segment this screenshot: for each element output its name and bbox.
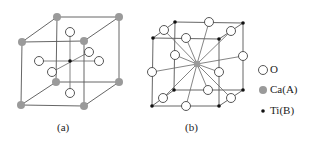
titanium-atom: [241, 21, 245, 25]
oxygen-atom: [239, 52, 248, 61]
calcium-atom: [17, 101, 25, 109]
oxygen-atom: [48, 68, 57, 77]
oxygen-atom: [171, 51, 180, 60]
perovskite-diagram: [0, 0, 311, 147]
oxygen-atom: [148, 68, 157, 77]
titanium-atom: [241, 88, 245, 92]
cube-a-edge: [22, 41, 84, 42]
calcium-atom: [18, 38, 26, 46]
calcium-atom: [80, 37, 88, 45]
calcium-atom: [80, 102, 88, 110]
legend-calcium-label: Ca(A): [270, 83, 298, 95]
panel-a-cube: [17, 13, 123, 110]
oxygen-atom: [227, 94, 236, 103]
calcium-atom: [115, 78, 123, 86]
titanium-atom: [68, 59, 72, 63]
titanium-atom: [173, 20, 177, 24]
oxygen-atom: [205, 18, 214, 27]
titanium-atom: [217, 104, 221, 108]
legend-calcium-icon: [259, 86, 267, 94]
calcium-atom: [52, 78, 60, 86]
cube-a-edge: [21, 42, 22, 105]
cube-a-edge: [84, 82, 119, 106]
panel-b-cube: [148, 18, 248, 111]
oxygen-atom: [227, 27, 236, 36]
oxygen-atom: [85, 48, 94, 57]
cube-a-edge: [84, 17, 119, 41]
calcium-atom: [115, 13, 123, 21]
legend-oxygen-icon: [259, 66, 268, 75]
legend-titanium-label: Ti(B): [270, 104, 294, 116]
titanium-atom: [150, 104, 154, 108]
titanium-atom: [172, 88, 176, 92]
titanium-atom: [217, 37, 221, 41]
titanium-atom: [151, 36, 155, 40]
cube-a-edge: [21, 105, 84, 106]
calcium-atom: [53, 13, 61, 21]
oxygen-atom: [204, 86, 213, 95]
cube-a-edge: [22, 17, 57, 42]
oxygen-atom: [182, 34, 191, 43]
panel-b-caption: (b): [185, 121, 198, 133]
oxygen-atom: [95, 57, 104, 66]
oxygen-atom: [160, 26, 169, 35]
cube-a-edge: [21, 82, 56, 105]
oxygen-atom: [66, 28, 75, 37]
oxygen-atom: [215, 68, 224, 77]
oxygen-atom: [159, 94, 168, 103]
legend-titanium-icon: [261, 109, 265, 113]
panel-a-caption: (a): [57, 121, 69, 133]
oxygen-atom: [182, 102, 191, 111]
legend-oxygen-label: O: [270, 63, 278, 75]
oxygen-atom: [66, 89, 75, 98]
oxygen-atom: [35, 57, 44, 66]
calcium-atom: [194, 61, 200, 67]
